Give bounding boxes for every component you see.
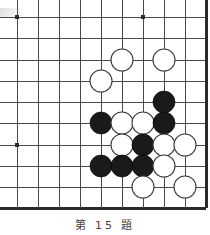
white-stone-8-8[interactable]: [174, 176, 196, 198]
white-stone-6-5[interactable]: [132, 112, 154, 134]
black-stone-5-7[interactable]: [111, 155, 133, 177]
white-stone-7-6[interactable]: [153, 134, 175, 156]
black-stone-6-7[interactable]: [132, 155, 154, 177]
white-stone-6-8[interactable]: [132, 176, 154, 198]
white-stone-7-7[interactable]: [153, 155, 175, 177]
white-stone-5-6[interactable]: [111, 134, 133, 156]
white-stone-5-5[interactable]: [111, 112, 133, 134]
caption-text: 第 15 題: [75, 220, 136, 232]
go-problem-figure: 第 15 題: [0, 0, 210, 235]
black-stone-6-6[interactable]: [132, 134, 154, 156]
figure-caption: 第 15 題: [0, 213, 210, 235]
white-stone-4-3[interactable]: [90, 70, 112, 92]
star-point-2: [15, 143, 19, 147]
star-point-1: [141, 15, 145, 19]
white-stone-7-2[interactable]: [153, 49, 175, 71]
black-stone-7-4[interactable]: [153, 91, 175, 113]
black-stone-4-7[interactable]: [90, 155, 112, 177]
black-stone-7-5[interactable]: [153, 112, 175, 134]
go-board-canvas[interactable]: [0, 0, 210, 215]
white-stone-5-2[interactable]: [111, 49, 133, 71]
star-point-0: [15, 15, 19, 19]
black-stone-4-5[interactable]: [90, 112, 112, 134]
go-board[interactable]: [0, 0, 210, 215]
white-stone-8-6[interactable]: [174, 134, 196, 156]
